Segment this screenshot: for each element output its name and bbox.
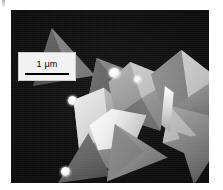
corner-artifact-mark: [2, 0, 5, 7]
figure-page: 1 μm: [0, 0, 223, 190]
sphere-bottom-left: [61, 167, 70, 176]
sem-micrograph-image: 1 μm: [11, 10, 209, 183]
scale-bar: 1 μm: [18, 52, 76, 81]
sphere-mid-left: [68, 96, 77, 105]
sphere-top-center: [109, 68, 120, 78]
scale-bar-label: 1 μm: [37, 59, 58, 69]
sphere-mid-right: [134, 76, 141, 83]
scale-bar-line: [25, 73, 69, 75]
